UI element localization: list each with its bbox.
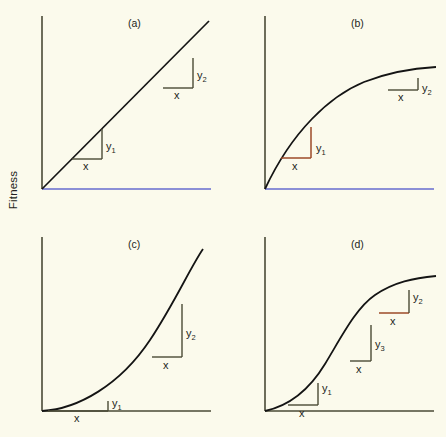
panel-d: y1 x y3 x y2 x (d): [265, 237, 436, 419]
panel-d-run-label-lower: x: [299, 407, 305, 419]
panel-c-rise-label-upper: y2: [186, 327, 196, 342]
figure-container: Fitness y1 x y2 x (a): [0, 0, 446, 437]
panel-a-run-label-upper: x: [174, 89, 180, 101]
panel-a-rise-label-lower: y1: [106, 140, 116, 155]
panel-b-title: (b): [351, 17, 364, 29]
panel-c-run-label-lower: x: [74, 412, 80, 424]
panel-c-run-label-upper: x: [163, 359, 169, 371]
panel-d-rise-label-upper: y2: [413, 291, 423, 306]
panel-b-curve: [265, 67, 436, 189]
panel-d-curve: [265, 276, 436, 411]
panel-a-curve: [42, 21, 209, 189]
panel-c-title: (c): [128, 238, 140, 250]
panel-c-curve: [42, 249, 203, 411]
panel-d-run-label-upper: x: [390, 315, 396, 327]
panel-d-run-label-middle: x: [356, 363, 362, 375]
panel-c-triangle-upper: y2 x: [152, 304, 196, 371]
panel-c: y1 x y2 x (c): [42, 237, 211, 424]
panel-b: y1 x y2 x (b): [265, 16, 436, 189]
panel-a-run-label-lower: x: [83, 160, 89, 172]
y-axis-label: Fitness: [7, 155, 19, 225]
panel-a-triangle-lower: y1 x: [72, 129, 116, 172]
panel-d-rise-label-lower: y1: [322, 382, 332, 397]
panel-b-run-label-upper: x: [398, 91, 404, 103]
panel-b-triangle-upper: y2 x: [388, 78, 432, 103]
panel-d-triangle-upper: y2 x: [379, 290, 423, 327]
panel-c-rise-label-lower: y1: [112, 397, 122, 412]
panel-d-title: (d): [351, 238, 364, 250]
panel-a-rise-label-upper: y2: [197, 69, 207, 84]
panel-b-rise-label-lower: y1: [316, 142, 326, 157]
panel-a: y1 x y2 x (a): [42, 16, 211, 189]
panel-b-run-label-lower: x: [292, 160, 298, 172]
panel-a-title: (a): [128, 17, 141, 29]
panel-d-rise-label-middle: y3: [375, 338, 385, 353]
panel-d-triangle-middle: y3 x: [350, 325, 385, 375]
panel-b-rise-label-upper: y2: [422, 82, 432, 97]
figure-svg: y1 x y2 x (a) y1 x: [0, 0, 446, 437]
panel-a-triangle-upper: y2 x: [163, 58, 207, 101]
panel-d-triangle-lower: y1 x: [288, 382, 332, 419]
